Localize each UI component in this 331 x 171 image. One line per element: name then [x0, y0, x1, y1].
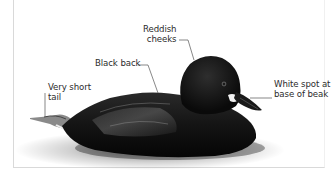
leader-line-cheeks	[179, 40, 194, 60]
leader-line-back	[138, 65, 158, 93]
label-white-spot-beak: White spot at base of beak	[274, 80, 330, 99]
label-reddish-cheeks: Reddish cheeks	[143, 25, 176, 44]
duck-head	[180, 56, 240, 114]
label-very-short-tail: Very short tail	[48, 83, 91, 102]
beak	[234, 92, 262, 111]
label-black-back: Black back	[95, 59, 140, 69]
